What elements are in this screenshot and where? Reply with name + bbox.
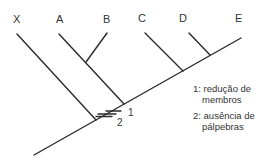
cladogram [0,0,265,160]
taxon-a: A [56,13,63,25]
taxon-b: B [103,13,110,25]
branch-x [17,34,96,120]
legend-text: pálpebras [193,121,255,132]
taxon-e: E [235,12,242,24]
taxon-d: D [179,12,187,24]
legend-text: membros [193,94,251,105]
branch-b [86,33,107,62]
marker-2-label: 2 [117,117,123,128]
branch-c [145,33,183,71]
marker-1-label: 1 [128,107,134,118]
branch-d [189,33,210,55]
legend-text: redução de [204,83,252,94]
legend-item-2: 2: ausência de pálpebras [193,110,255,132]
legend-num: 2: [193,110,201,121]
taxon-x: X [13,13,20,25]
branch-a [59,34,124,104]
legend-text: ausência de [204,110,255,121]
legend-num: 1: [193,83,201,94]
taxon-c: C [138,12,146,24]
legend-item-1: 1: redução de membros [193,83,251,105]
